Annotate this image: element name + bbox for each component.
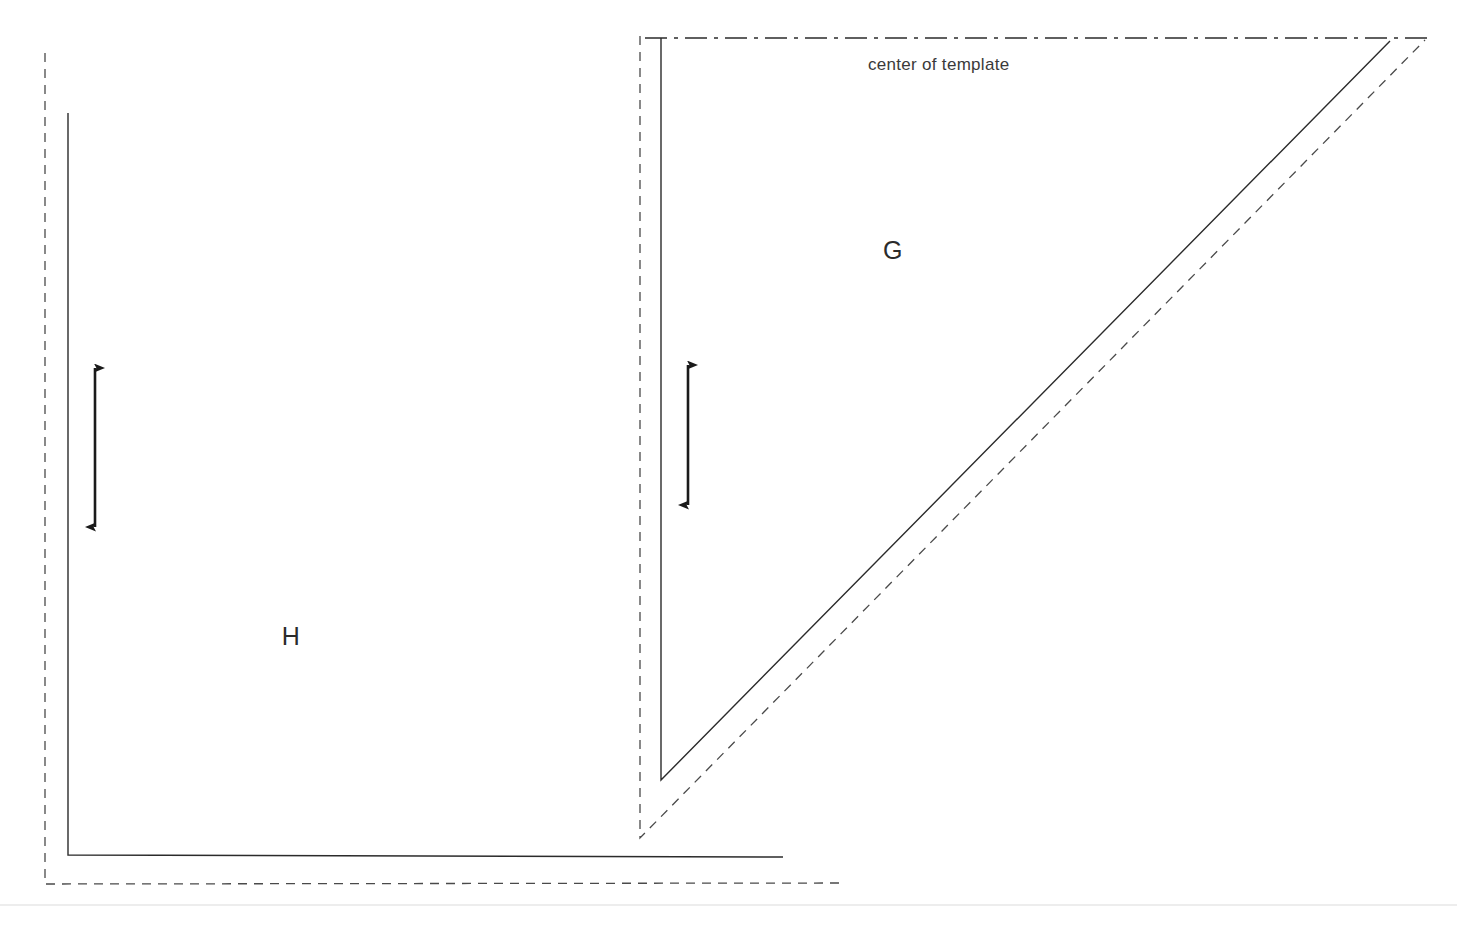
pattern-template-drawing: H G center of template bbox=[0, 0, 1457, 925]
center-of-template-label: center of template bbox=[868, 55, 1009, 74]
piece-label-h: H bbox=[282, 622, 301, 650]
seam-allowance-line-h bbox=[45, 53, 840, 884]
piece-label-g: G bbox=[883, 236, 903, 264]
pattern-piece-g: G bbox=[640, 36, 1425, 838]
cut-line-g bbox=[661, 38, 1390, 780]
cut-line-h bbox=[68, 113, 783, 857]
pattern-piece-h: H bbox=[45, 53, 840, 884]
diagram-canvas: H G center of template bbox=[0, 0, 1457, 925]
seam-allowance-line-g bbox=[640, 36, 1425, 838]
center-of-template-marking: center of template bbox=[645, 38, 1428, 74]
